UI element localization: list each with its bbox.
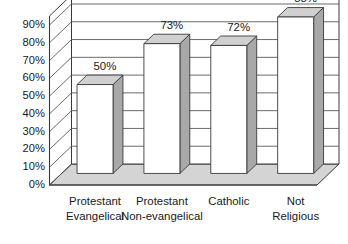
bar-value-label-1: 73% (160, 19, 183, 31)
bar-side-0 (113, 75, 123, 173)
y-tick-label-40: 40% (23, 107, 45, 119)
x-category-label-1-line1: Protestant (136, 195, 189, 207)
bar-side-1 (180, 34, 190, 173)
y-tick-label-50: 50% (23, 89, 45, 101)
x-category-label-1-line2: Non-evangelical (121, 210, 203, 222)
y-tick-label-20: 20% (23, 142, 45, 154)
bar-side-3 (314, 8, 324, 174)
bar-chart-3d: 0%10%20%30%40%50%60%70%80%90%50%73%72%88… (0, 0, 348, 244)
bar-group-3 (278, 8, 324, 174)
y-tick-label-70: 70% (23, 54, 45, 66)
chart-canvas: 0%10%20%30%40%50%60%70%80%90%50%73%72%88… (0, 0, 348, 244)
bar-front-0 (77, 85, 113, 174)
x-category-label-2-line1: Catholic (208, 195, 249, 207)
x-category-label-0-line1: Protestant (69, 195, 122, 207)
y-tick-label-30: 30% (23, 125, 45, 137)
bar-front-3 (278, 17, 314, 173)
y-tick-label-10: 10% (23, 160, 45, 172)
category-labels: ProtestantEvangelicalProtestantNon-evang… (66, 195, 319, 223)
bar-front-1 (144, 44, 180, 174)
bar-front-2 (211, 45, 247, 173)
bar-group-0 (77, 75, 123, 173)
x-category-label-3-line1: Not (287, 195, 306, 207)
bar-side-2 (247, 36, 257, 173)
bar-group-1 (144, 34, 190, 173)
y-tick-label-80: 80% (23, 36, 45, 48)
x-category-label-3-line2: Religious (272, 210, 319, 222)
bar-value-label-3: 88% (294, 0, 317, 4)
y-tick-label-60: 60% (23, 71, 45, 83)
bar-group-2 (211, 36, 257, 173)
y-tick-label-90: 90% (23, 18, 45, 30)
x-category-label-0-line2: Evangelical (66, 210, 124, 222)
bar-value-label-2: 72% (227, 21, 250, 33)
bar-value-label-0: 50% (94, 60, 117, 72)
y-tick-label-0: 0% (29, 178, 45, 190)
